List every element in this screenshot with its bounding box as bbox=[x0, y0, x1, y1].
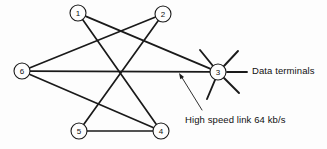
link-6-4 bbox=[29, 74, 153, 128]
network-diagram-canvas: 123456 Data terminals High speed link 64… bbox=[0, 0, 327, 149]
leader-arrowhead-icon bbox=[179, 73, 184, 79]
node-4[interactable]: 4 bbox=[153, 123, 169, 139]
node-1[interactable]: 1 bbox=[70, 5, 86, 21]
links-group bbox=[29, 16, 210, 131]
node-3[interactable]: 3 bbox=[210, 64, 226, 80]
node-label-1: 1 bbox=[76, 9, 81, 18]
node-5[interactable]: 5 bbox=[71, 123, 87, 139]
node-6[interactable]: 6 bbox=[14, 63, 30, 79]
terminal-spoke-lower-right bbox=[224, 78, 239, 93]
node-label-2: 2 bbox=[161, 10, 166, 19]
leader-line bbox=[181, 76, 202, 110]
link-2-6 bbox=[29, 17, 155, 68]
node-2[interactable]: 2 bbox=[155, 6, 171, 22]
high-speed-link-leader bbox=[179, 73, 202, 110]
link-6-3 bbox=[30, 71, 210, 72]
node-label-6: 6 bbox=[20, 67, 25, 76]
node-label-4: 4 bbox=[159, 127, 164, 136]
node-label-5: 5 bbox=[77, 127, 82, 136]
high-speed-link-label: High speed link 64 kb/s bbox=[185, 114, 286, 125]
terminal-spoke-upper-right bbox=[224, 51, 238, 66]
terminal-spoke-lower-left bbox=[207, 80, 215, 99]
terminal-spoke-upper-left bbox=[200, 50, 213, 66]
node-label-3: 3 bbox=[216, 68, 221, 77]
link-1-3 bbox=[85, 16, 210, 69]
data-terminals-label: Data terminals bbox=[252, 65, 315, 76]
